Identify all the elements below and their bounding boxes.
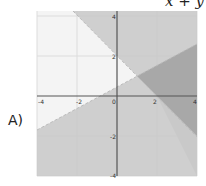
answer-choice-label[interactable]: A) [8, 112, 23, 128]
inequality-graph: -4 -2 0 2 4 4 2 -2 -4 [0, 0, 206, 186]
svg-text:-4: -4 [110, 172, 116, 179]
svg-text:-2: -2 [110, 133, 116, 140]
svg-text:-4: -4 [38, 98, 44, 105]
svg-text:4: 4 [193, 98, 197, 105]
svg-text:4: 4 [112, 13, 116, 20]
question-header-fragment: x + y [165, 0, 204, 10]
svg-text:-2: -2 [76, 98, 82, 105]
svg-text:0: 0 [112, 98, 116, 105]
svg-text:2: 2 [153, 98, 157, 105]
svg-text:2: 2 [112, 53, 116, 60]
